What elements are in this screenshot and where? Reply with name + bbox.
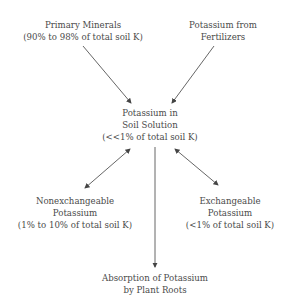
node-label: Soil Solution: [100, 119, 200, 131]
node-label: Potassium: [15, 207, 135, 219]
node-label: Primary Minerals: [22, 19, 144, 31]
node-fertilizers: Potassium from Fertilizers: [175, 19, 271, 43]
node-label: (1% to 10% of total soil K): [15, 219, 135, 231]
node-label: Absorption of Potassium: [95, 272, 215, 284]
arrow-fertilizers-to-solution: [172, 46, 214, 103]
node-label: Potassium in: [100, 107, 200, 119]
node-primary-minerals: Primary Minerals (90% to 98% of total so…: [22, 19, 144, 43]
arrow-primary-to-solution: [83, 46, 131, 103]
node-label: Potassium: [183, 207, 277, 219]
node-soil-solution: Potassium in Soil Solution (<<1% of tota…: [100, 107, 200, 143]
node-label: Nonexchangeable: [15, 195, 135, 207]
node-absorption: Absorption of Potassium by Plant Roots: [95, 272, 215, 296]
node-label: (90% to 98% of total soil K): [22, 31, 144, 43]
node-exchangeable: Exchangeable Potassium (<1% of total soi…: [183, 195, 277, 231]
node-label: (<<1% of total soil K): [100, 131, 200, 143]
node-label: Potassium from: [175, 19, 271, 31]
node-label: by Plant Roots: [95, 284, 215, 296]
arrow-solution-exchangeable: [175, 149, 218, 185]
node-nonexchangeable: Nonexchangeable Potassium (1% to 10% of …: [15, 195, 135, 231]
arrow-solution-nonexchangeable: [85, 149, 130, 188]
node-label: Exchangeable: [183, 195, 277, 207]
node-label: Fertilizers: [175, 31, 271, 43]
node-label: (<1% of total soil K): [183, 219, 277, 231]
arrows-layer: [0, 0, 289, 307]
